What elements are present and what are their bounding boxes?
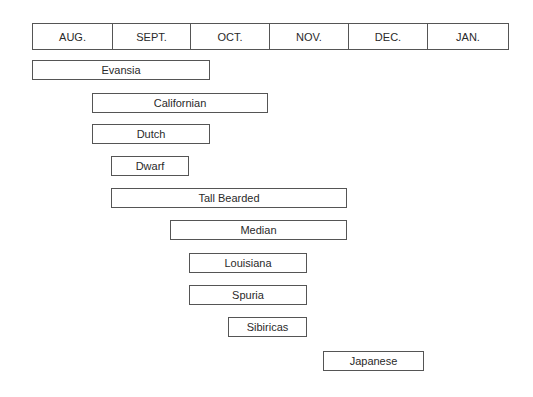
bloom-bar: Median bbox=[170, 220, 347, 240]
bloom-bar: Dwarf bbox=[111, 156, 189, 176]
bloom-bar: Californian bbox=[92, 93, 268, 113]
bloom-bar: Evansia bbox=[32, 60, 210, 80]
month-header-3: NOV. bbox=[269, 23, 349, 50]
bloom-bar: Sibiricas bbox=[228, 317, 307, 337]
month-header-0: AUG. bbox=[32, 23, 113, 50]
bloom-bar: Japanese bbox=[323, 351, 424, 371]
month-header-5: JAN. bbox=[427, 23, 509, 50]
bloom-bar: Louisiana bbox=[189, 253, 307, 273]
month-header-4: DEC. bbox=[348, 23, 428, 50]
month-header-1: SEPT. bbox=[112, 23, 191, 50]
bloom-bar: Dutch bbox=[92, 124, 210, 144]
month-header-2: OCT. bbox=[190, 23, 270, 50]
bloom-bar: Tall Bearded bbox=[111, 188, 347, 208]
bloom-bar: Spuria bbox=[189, 285, 307, 305]
